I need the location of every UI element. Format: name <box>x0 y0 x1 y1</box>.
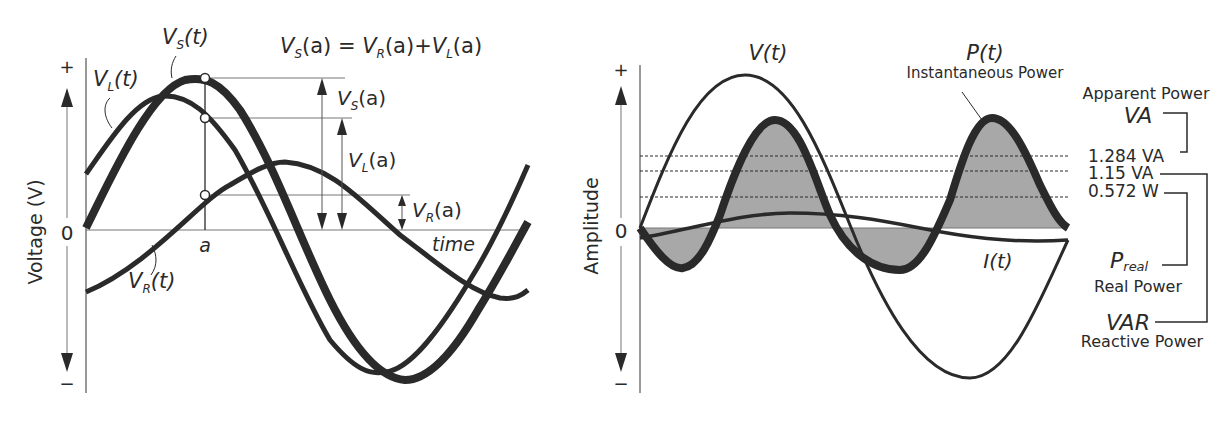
left-up-arrow-icon <box>61 88 73 107</box>
label-vr-a: VR(a) <box>412 198 462 225</box>
label-v-t: V(t) <box>749 41 788 65</box>
power-legend: Apparent Power VA 1.284 VA 1.15 VA 0.572… <box>1081 84 1210 351</box>
leader-vl <box>105 98 112 128</box>
label-vl-a: VL(a) <box>348 148 396 175</box>
legend-value-reactive: 1.15 VA <box>1088 163 1154 183</box>
left-y-zero: 0 <box>61 221 74 245</box>
label-vr-t: VR(t) <box>128 269 175 296</box>
measure-vl-arrow <box>337 118 347 230</box>
right-up-arrow-icon <box>615 86 627 105</box>
curve-vs <box>86 79 528 380</box>
point-a-label: a <box>199 234 211 256</box>
label-vl-t: VL(t) <box>93 67 139 94</box>
marker-vs-point <box>201 74 210 83</box>
legend-apparent-title: Apparent Power <box>1082 84 1209 103</box>
marker-vr-point <box>201 191 210 200</box>
ac-power-diagram: + − 0 Voltage (V) <box>0 0 1229 426</box>
label-vs-a: VS(a) <box>337 86 386 113</box>
legend-real-title: Real Power <box>1094 277 1182 296</box>
marker-vl-point <box>201 114 210 123</box>
label-i-t: I(t) <box>983 249 1012 273</box>
right-y-axis-label: Amplitude <box>580 177 602 274</box>
legend-real-symbol: Preal <box>1110 248 1149 274</box>
legend-reactive-title: Reactive Power <box>1081 332 1204 351</box>
left-y-minus: − <box>59 373 74 394</box>
legend-value-real: 0.572 W <box>1088 181 1159 201</box>
label-vs-t: VS(t) <box>162 25 209 52</box>
bracket-reactive <box>1155 174 1207 322</box>
left-y-axis-label: Voltage (V) <box>24 179 46 284</box>
measure-vr-arrow <box>398 195 406 230</box>
left-y-plus: + <box>59 56 74 77</box>
left-panel-voltage-phasor-plot: + − 0 Voltage (V) <box>24 25 528 394</box>
right-y-zero: 0 <box>615 219 628 243</box>
bracket-real <box>1162 193 1187 265</box>
measure-vs-arrow <box>317 78 327 230</box>
bracket-apparent <box>1163 113 1187 152</box>
right-y-plus: + <box>613 59 628 80</box>
left-down-arrow-icon <box>61 353 73 372</box>
label-p-t: P(t) <box>966 41 1003 65</box>
legend-apparent-symbol: VA <box>1124 103 1153 128</box>
label-p-desc: Instantaneous Power <box>907 64 1065 82</box>
right-y-minus: − <box>613 373 628 394</box>
leader-vs <box>171 56 176 78</box>
leader-p-t <box>962 92 982 120</box>
x-axis-label-time: time <box>432 233 475 255</box>
equation-vs-sum: VS(a) = VR(a)+VL(a) <box>280 34 482 61</box>
right-panel-power-plot: + − 0 Amplitude V(t) P(t) Instantaneous … <box>580 41 1210 394</box>
right-down-arrow-icon <box>615 353 627 372</box>
